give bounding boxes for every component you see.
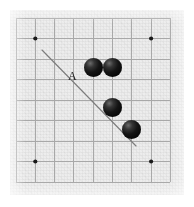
- stone-1[interactable]: [84, 58, 103, 77]
- label-a: A: [68, 70, 77, 82]
- stone-2[interactable]: [103, 58, 122, 77]
- annotation-overlay: [10, 10, 184, 195]
- stone-3[interactable]: [103, 98, 122, 117]
- stone-4[interactable]: [122, 120, 141, 139]
- go-board[interactable]: A: [10, 10, 184, 195]
- go-board-figure: A: [0, 0, 194, 207]
